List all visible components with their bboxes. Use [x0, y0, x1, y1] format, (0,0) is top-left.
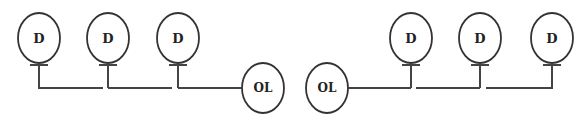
device-label: D [33, 31, 44, 46]
device-node: D [531, 13, 573, 63]
right-group-wires [348, 65, 561, 88]
device-node: D [157, 13, 199, 63]
device-label: D [172, 31, 183, 46]
device-node: D [390, 13, 432, 63]
terminal-node: OL [242, 63, 284, 113]
left-group-wires [30, 65, 242, 88]
device-label: D [405, 31, 416, 46]
network-diagram: D D D OL OL D D D [0, 0, 587, 120]
device-node: D [18, 13, 60, 63]
device-label: D [546, 31, 557, 46]
terminal-label: OL [318, 81, 337, 95]
terminal-label: OL [254, 81, 273, 95]
device-node: D [87, 13, 129, 63]
terminal-node: OL [306, 63, 348, 113]
device-node: D [459, 13, 501, 63]
device-label: D [474, 31, 485, 46]
device-label: D [102, 31, 113, 46]
